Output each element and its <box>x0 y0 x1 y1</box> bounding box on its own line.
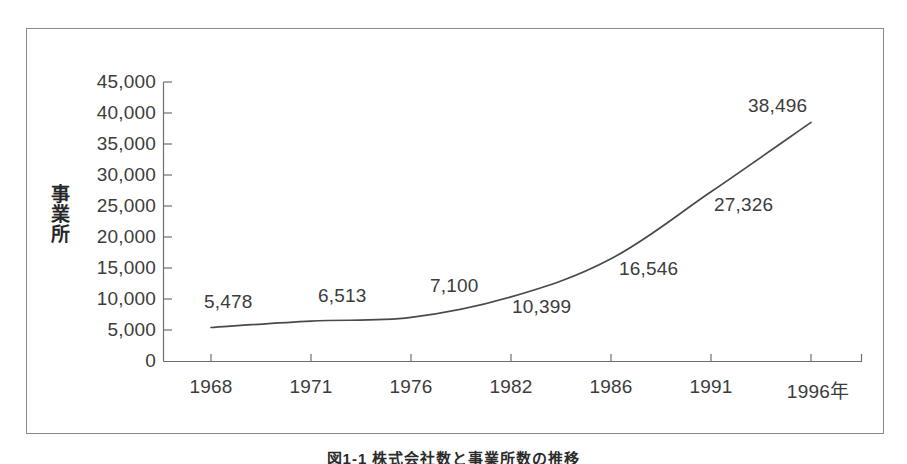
x-tick-label-1996: 1996年 <box>787 376 849 403</box>
data-label-1986: 16,546 <box>619 258 678 280</box>
y-tick-label-10000: 10,000 <box>58 288 156 310</box>
y-tick-label-45000: 45,000 <box>58 71 156 93</box>
y-tick-label-35000: 35,000 <box>58 133 156 155</box>
x-tick-label-1991: 1991 <box>689 376 732 398</box>
data-label-1996: 38,496 <box>748 95 807 117</box>
x-tick-label-1976: 1976 <box>389 376 432 398</box>
data-label-1982: 10,399 <box>512 296 571 318</box>
y-tick-label-40000: 40,000 <box>58 102 156 124</box>
figure-caption: 図1-1 株式会社数と事業所数の推移 <box>0 447 907 464</box>
y-tick-label-30000: 30,000 <box>58 164 156 186</box>
x-tick-label-1971: 1971 <box>289 376 332 398</box>
y-tick-label-0: 0 <box>58 350 156 372</box>
x-tick-label-1986: 1986 <box>589 376 632 398</box>
data-label-1976: 7,100 <box>430 275 479 297</box>
figure-root: 事 業 所 45,000 40,000 35,000 30,000 25,000… <box>0 0 907 464</box>
x-tick-label-1968: 1968 <box>189 376 232 398</box>
data-label-1991: 27,326 <box>714 194 773 216</box>
data-label-1968: 5,478 <box>204 291 253 313</box>
x-tick-label-1982: 1982 <box>489 376 532 398</box>
y-tick-label-15000: 15,000 <box>58 257 156 279</box>
y-tick-label-25000: 25,000 <box>58 195 156 217</box>
y-tick-label-20000: 20,000 <box>58 226 156 248</box>
y-tick-label-5000: 5,000 <box>58 319 156 341</box>
data-label-1971: 6,513 <box>318 285 367 307</box>
